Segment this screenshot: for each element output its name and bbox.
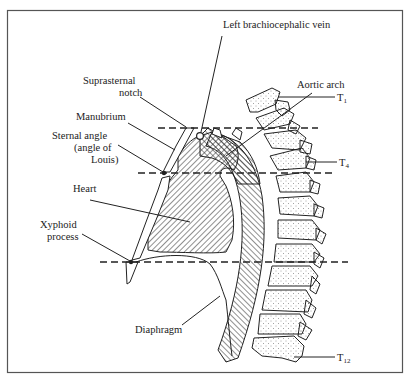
- label-xyphoid-line1: Xyphoid: [40, 219, 78, 230]
- label-heart: Heart: [73, 183, 96, 194]
- vertebra-t4: [270, 148, 310, 170]
- label-sternal-angle-line1: Sternal angle: [52, 130, 107, 141]
- label-xyphoid-line2: process: [47, 231, 79, 242]
- label-sternal-angle-line3: Louis): [91, 154, 119, 166]
- label-t4: T4: [339, 157, 349, 170]
- label-diaphragm: Diaphragm: [135, 324, 182, 335]
- xyphoid-shape: [126, 262, 138, 284]
- vertebra-t12: [252, 336, 304, 362]
- label-suprasternal-notch-line1: Suprasternal: [83, 75, 136, 86]
- vertebra-t6: [278, 196, 318, 216]
- label-left-brachiocephalic-vein: Left brachiocephalic vein: [223, 19, 331, 30]
- diaphragm-shape: [136, 256, 232, 357]
- label-suprasternal-notch-line2: notch: [119, 87, 143, 98]
- label-t1: T1: [337, 92, 347, 105]
- label-t12: T12: [337, 352, 351, 365]
- vertebra-t5: [276, 172, 314, 192]
- label-manubrium: Manubrium: [76, 111, 126, 122]
- vertebra-t8: [274, 244, 320, 262]
- thorax-diagram: Left brachiocephalic vein Suprasternal n…: [0, 0, 410, 380]
- label-sternal-angle-line2: (angle of: [74, 142, 112, 154]
- label-aortic-arch: Aortic arch: [297, 79, 345, 90]
- vertebra-t7: [278, 220, 320, 240]
- left-brachiocephalic-vein-marker: [197, 133, 204, 140]
